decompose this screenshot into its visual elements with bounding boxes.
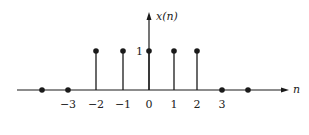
- stem-marker: [65, 87, 71, 93]
- stem-plot: n x(n) 1 −3−2−10123: [0, 0, 309, 135]
- y-tick-label: 1: [136, 45, 143, 58]
- x-tick-label: 3: [219, 98, 226, 111]
- x-tick-label: 0: [146, 98, 153, 111]
- x-tick-labels: −3−2−10123: [60, 98, 226, 111]
- x-axis: n: [17, 83, 300, 96]
- x-axis-label: n: [293, 83, 300, 96]
- stem-marker: [171, 48, 177, 54]
- stem-marker: [120, 48, 126, 54]
- stems: [39, 48, 251, 93]
- x-axis-arrow-icon: [281, 88, 289, 93]
- stem-marker: [93, 48, 99, 54]
- x-tick-label: 2: [194, 98, 201, 111]
- x-tick-label: 1: [171, 98, 178, 111]
- stem-marker: [146, 48, 152, 54]
- stem-marker: [219, 87, 225, 93]
- x-tick-label: −3: [60, 98, 76, 111]
- y-axis-arrow-icon: [147, 12, 152, 20]
- x-tick-label: −2: [88, 98, 104, 111]
- y-axis-label: x(n): [156, 10, 178, 23]
- stem-marker: [39, 87, 45, 93]
- x-tick-label: −1: [115, 98, 131, 111]
- stem-marker: [245, 87, 251, 93]
- stem-marker: [194, 48, 200, 54]
